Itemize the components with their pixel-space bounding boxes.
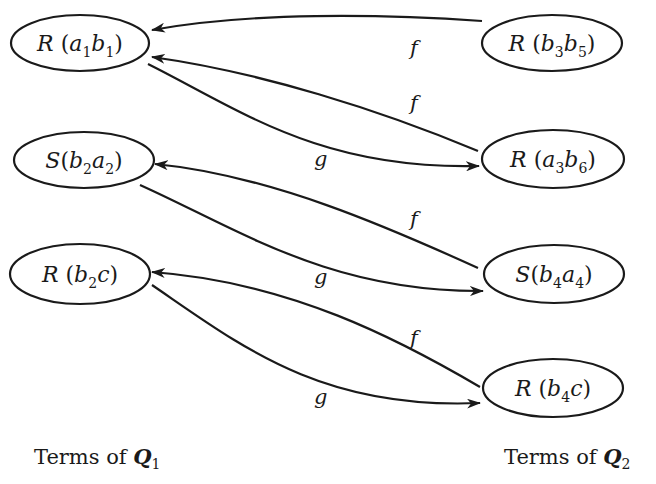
edge-label-f: f bbox=[408, 326, 421, 350]
edge-label-f: f bbox=[408, 207, 421, 231]
node-r-b2-c: R (b2c) bbox=[10, 244, 150, 304]
left-column-caption: Terms of Q1 bbox=[34, 444, 161, 472]
node-r-b4-c: R (b4c) bbox=[483, 359, 623, 417]
edge-label-g: g bbox=[314, 385, 327, 409]
edges bbox=[140, 16, 483, 404]
right-column-nodes: R (b3b5) R (a3b6) S(b4a4) R (b4c) bbox=[482, 15, 624, 417]
mapping-diagram: f f g f g f g R (a1b1) S(b2a2) R (b2c) bbox=[0, 0, 656, 484]
node-r-a3-b6: R (a3b6) bbox=[482, 130, 624, 188]
edge-label-f: f bbox=[408, 36, 421, 60]
node-s-b4-a4: S(b4a4) bbox=[484, 245, 624, 303]
edge-label-f: f bbox=[408, 91, 421, 115]
right-column-caption: Terms of Q2 bbox=[504, 444, 631, 472]
node-s-b2-a2: S(b2a2) bbox=[14, 132, 154, 188]
edge-labels: f f g f g f g bbox=[314, 36, 421, 409]
edge-f-r2-to-l1 bbox=[152, 57, 478, 151]
node-r-a1-b1: R (a1b1) bbox=[11, 15, 149, 71]
svg-text:R (b4c): R (b4c) bbox=[514, 376, 591, 405]
node-r-b3-b5: R (b3b5) bbox=[482, 15, 622, 71]
edge-label-g: g bbox=[314, 147, 327, 171]
edge-label-g: g bbox=[314, 265, 327, 289]
svg-text:R (b2c): R (b2c) bbox=[41, 262, 118, 291]
left-column-nodes: R (a1b1) S(b2a2) R (b2c) bbox=[10, 15, 154, 304]
edge-f-r1-to-l1 bbox=[152, 16, 482, 30]
